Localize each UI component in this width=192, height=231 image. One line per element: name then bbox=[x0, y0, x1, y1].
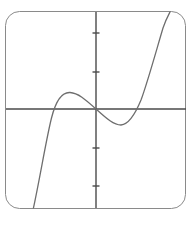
cubic-polynomial-graph bbox=[0, 0, 192, 231]
graph-canvas bbox=[0, 0, 192, 231]
